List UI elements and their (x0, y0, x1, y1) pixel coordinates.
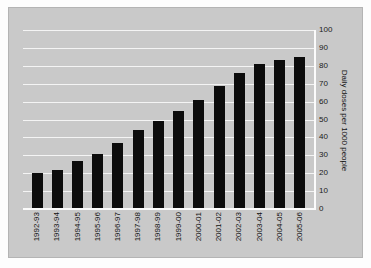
bar-series (23, 30, 314, 209)
x-axis-tick-label: 1998-99 (154, 212, 162, 241)
bar-slot (47, 30, 67, 209)
bar-slot (209, 30, 229, 209)
x-tick-slot: 2005-06 (290, 212, 310, 256)
bar[interactable] (274, 60, 285, 209)
x-axis-tick-label: 1997-98 (134, 212, 142, 241)
x-axis-tick-label: 2003-04 (256, 212, 264, 241)
x-tick-slot: 2003-04 (249, 212, 269, 256)
bar-slot (249, 30, 269, 209)
x-tick-slot: 1992-93 (27, 212, 47, 256)
y-axis-title-label: Daily doses per 1000 people (341, 69, 350, 170)
x-axis-tick-label: 2000-01 (195, 212, 203, 241)
bar[interactable] (112, 143, 123, 209)
x-axis-tick-label: 1993-94 (53, 212, 61, 241)
bar[interactable] (92, 154, 103, 209)
x-axis-tick-label: 2004-05 (276, 212, 284, 241)
bar-slot (270, 30, 290, 209)
bar-slot (290, 30, 310, 209)
bar-slot (189, 30, 209, 209)
plot-area (23, 30, 314, 209)
x-tick-slot: 1998-99 (148, 212, 168, 256)
x-tick-slot: 1995-96 (88, 212, 108, 256)
chart-figure: 0102030405060708090100 Daily doses per 1… (0, 0, 371, 268)
bar[interactable] (52, 170, 63, 209)
chart-plot-panel: 0102030405060708090100 Daily doses per 1… (8, 7, 363, 258)
x-axis-tick-label: 1996-97 (114, 212, 122, 241)
bar-slot (27, 30, 47, 209)
bar[interactable] (72, 161, 83, 209)
x-tick-slot: 1999-00 (169, 212, 189, 256)
x-axis-tick-label: 1994-95 (74, 212, 82, 241)
x-tick-slot: 1994-95 (67, 212, 87, 256)
y-axis-title: Daily doses per 1000 people (338, 30, 352, 210)
x-axis-tick-label: 2001-02 (215, 212, 223, 241)
x-tick-slot: 2002-03 (229, 212, 249, 256)
bar[interactable] (294, 57, 305, 209)
bar-slot (169, 30, 189, 209)
bar-slot (108, 30, 128, 209)
x-axis-tick-label: 1995-96 (94, 212, 102, 241)
x-axis-tick-label: 2002-03 (235, 212, 243, 241)
bar-slot (128, 30, 148, 209)
bar-slot (229, 30, 249, 209)
x-axis-tick-label: 1992-93 (33, 212, 41, 241)
bar[interactable] (193, 100, 204, 209)
x-tick-slot: 1996-97 (108, 212, 128, 256)
bar[interactable] (153, 121, 164, 209)
x-tick-slot: 2000-01 (189, 212, 209, 256)
x-axis-tick-labels: 1992-931993-941994-951995-961996-971997-… (23, 212, 314, 256)
bar[interactable] (133, 130, 144, 209)
y-axis-line (314, 30, 316, 210)
bar-slot (148, 30, 168, 209)
bar-slot (67, 30, 87, 209)
x-tick-slot: 2001-02 (209, 212, 229, 256)
bar-slot (88, 30, 108, 209)
bar[interactable] (254, 64, 265, 209)
bar[interactable] (234, 73, 245, 209)
x-axis-tick-label: 2005-06 (296, 212, 304, 241)
x-tick-slot: 2004-05 (270, 212, 290, 256)
x-axis-tick-label: 1999-00 (175, 212, 183, 241)
x-axis-line (23, 208, 316, 210)
bar[interactable] (32, 173, 43, 209)
bar[interactable] (214, 86, 225, 210)
x-tick-slot: 1997-98 (128, 212, 148, 256)
x-tick-slot: 1993-94 (47, 212, 67, 256)
bar[interactable] (173, 111, 184, 209)
